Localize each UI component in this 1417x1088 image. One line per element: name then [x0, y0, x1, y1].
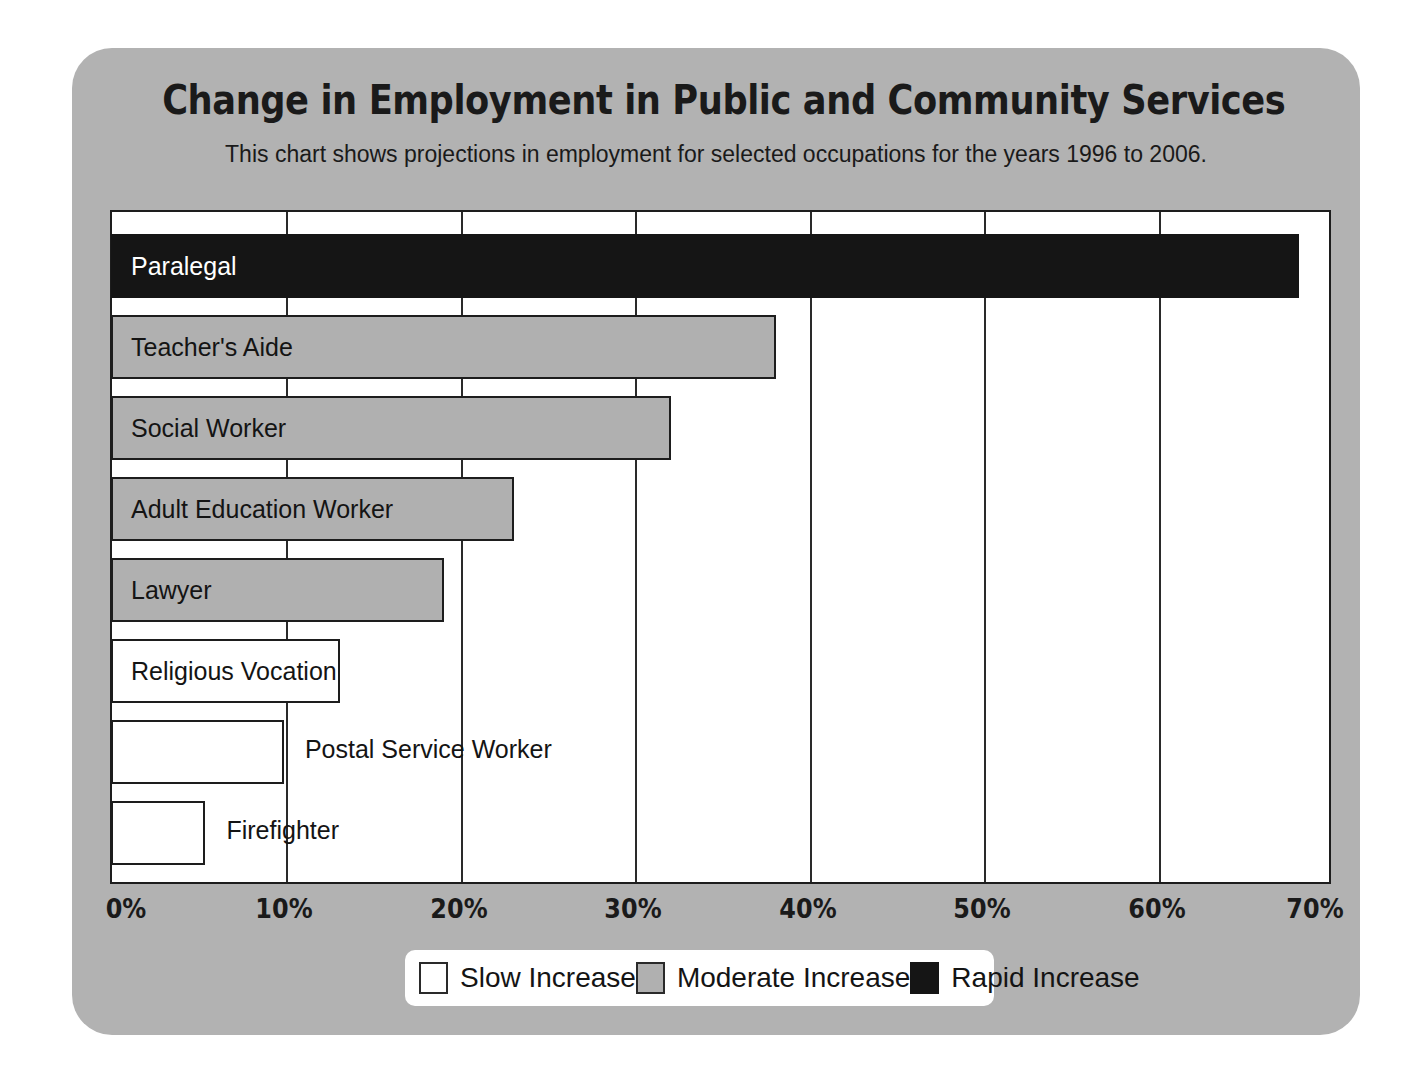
legend-label: Rapid Increase [951, 962, 1139, 994]
bar-label: Lawyer [113, 576, 212, 605]
bar-paralegal[interactable]: Paralegal [111, 234, 1299, 298]
legend-item-rapid[interactable]: Rapid Increase [910, 962, 1139, 994]
bar-teacher-s-aide[interactable]: Teacher's Aide [111, 315, 776, 379]
legend-swatch-icon [636, 962, 665, 994]
x-tick-label: 0% [106, 894, 147, 924]
bar-religious-vocation[interactable]: Religious Vocation [111, 639, 340, 703]
bar-label: Postal Service Worker [305, 735, 552, 764]
gridline [461, 212, 463, 882]
gridline [1159, 212, 1161, 882]
bar-label: Social Worker [113, 414, 286, 443]
legend-label: Slow Increase [460, 962, 636, 994]
bar-postal-service-worker[interactable] [111, 720, 284, 784]
x-tick-label: 60% [1128, 894, 1185, 924]
legend-swatch-icon [910, 962, 939, 994]
x-tick-label: 30% [605, 894, 662, 924]
x-tick-label: 20% [430, 894, 487, 924]
legend-label: Moderate Increase [677, 962, 910, 994]
bar-label: Firefighter [226, 816, 339, 845]
chart-card: Change in Employment in Public and Commu… [72, 48, 1360, 1035]
bar-firefighter[interactable] [111, 801, 205, 865]
gridline [984, 212, 986, 882]
gridline [286, 212, 288, 882]
x-tick-label: 40% [779, 894, 836, 924]
page-title: Change in Employment in Public and Commu… [162, 76, 1270, 124]
x-tick-label: 70% [1286, 894, 1343, 924]
bar-label: Paralegal [113, 252, 237, 281]
bar-label: Teacher's Aide [113, 333, 293, 362]
legend-swatch-icon [419, 962, 448, 994]
gridline [810, 212, 812, 882]
gridline [635, 212, 637, 882]
legend-item-moderate[interactable]: Moderate Increase [636, 962, 910, 994]
bar-label: Religious Vocation [113, 657, 337, 686]
chart-legend: Slow IncreaseModerate IncreaseRapid Incr… [405, 950, 994, 1006]
bar-adult-education-worker[interactable]: Adult Education Worker [111, 477, 514, 541]
chart-page: Change in Employment in Public and Commu… [0, 0, 1417, 1088]
legend-item-slow[interactable]: Slow Increase [419, 962, 636, 994]
bar-lawyer[interactable]: Lawyer [111, 558, 444, 622]
x-tick-label: 50% [954, 894, 1011, 924]
x-tick-label: 10% [256, 894, 313, 924]
chart-subtitle: This chart shows projections in employme… [72, 141, 1360, 168]
plot-area: ParalegalTeacher's AideSocial WorkerAdul… [110, 210, 1331, 884]
bar-social-worker[interactable]: Social Worker [111, 396, 671, 460]
bar-label: Adult Education Worker [113, 495, 393, 524]
